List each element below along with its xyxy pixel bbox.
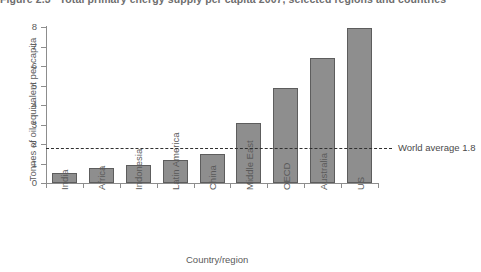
x-category-china: China [207, 190, 221, 202]
x-category-oecd: OECD [281, 190, 295, 202]
y-tick-6 [41, 66, 46, 67]
y-tick-7 [41, 47, 46, 48]
y-tick-label-4: 4 [24, 100, 37, 109]
x-category-australia: Australia [318, 190, 332, 202]
x-tick-6 [267, 183, 268, 188]
x-axis-title: Country/region [186, 254, 248, 265]
x-category-latin-america: Latin America [170, 190, 184, 202]
x-category-label: OECD [281, 163, 293, 190]
y-tick-label-1: 1 [24, 159, 37, 168]
x-tick-3 [157, 183, 158, 188]
y-tick-label-8: 8 [24, 22, 37, 31]
y-axis-line [46, 26, 47, 184]
y-tick-label-5: 5 [24, 81, 37, 90]
bar-us [347, 28, 372, 183]
y-tick-label-3: 3 [24, 120, 37, 129]
x-tick-7 [304, 183, 305, 188]
x-category-middle-east: Middle East [244, 190, 258, 202]
figure-title-text: Total primary energy supply per capita 2… [60, 0, 447, 5]
x-category-label: China [207, 165, 219, 190]
x-tick-4 [194, 183, 195, 188]
x-category-label: US [355, 177, 367, 190]
x-category-label: Australia [318, 153, 330, 190]
figure-energy-per-capita: Figure 2.3Total primary energy supply pe… [0, 0, 481, 272]
x-category-label: India [59, 169, 71, 190]
x-category-label: Indonesia [133, 149, 145, 190]
x-tick-8 [341, 183, 342, 188]
x-tick-0 [46, 183, 47, 188]
y-tick-8 [41, 27, 46, 28]
x-tick-5 [230, 183, 231, 188]
world-average-label: World average 1.8 [398, 142, 475, 153]
figure-caption: Figure 2.3Total primary energy supply pe… [0, 0, 481, 7]
y-tick-label-0: 0 [24, 178, 37, 187]
y-tick-label-2: 2 [24, 139, 37, 148]
y-tick-label-7: 7 [24, 42, 37, 51]
y-tick-5 [41, 86, 46, 87]
y-tick-4 [41, 105, 46, 106]
x-category-label: Latin America [170, 132, 182, 190]
y-tick-3 [41, 125, 46, 126]
world-average-line [46, 148, 392, 149]
x-category-us: US [355, 190, 369, 202]
x-tick-2 [120, 183, 121, 188]
x-category-label: Africa [96, 166, 108, 190]
x-category-indonesia: Indonesia [133, 190, 147, 202]
x-category-india: India [59, 190, 73, 202]
y-tick-2 [41, 144, 46, 145]
x-tick-9 [378, 183, 379, 188]
x-category-africa: Africa [96, 190, 110, 202]
x-tick-1 [83, 183, 84, 188]
y-tick-label-6: 6 [24, 61, 37, 70]
y-tick-1 [41, 164, 46, 165]
figure-number: Figure 2.3 [0, 0, 51, 5]
